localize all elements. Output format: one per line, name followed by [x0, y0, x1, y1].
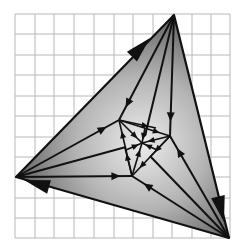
- edge-arrowhead-icon: [24, 180, 51, 194]
- pursuit-triangle-diagram: [0, 0, 243, 252]
